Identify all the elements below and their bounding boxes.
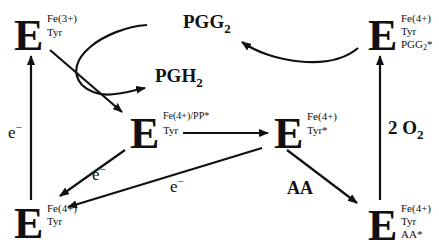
minus-sign: − (178, 175, 184, 187)
radical-star: * (427, 38, 433, 50)
label-pgg2: PGG2 (183, 12, 231, 39)
o2-subscript: 2 (417, 127, 424, 142)
enzyme-node-bottom-left: E (14, 202, 43, 246)
pgg2-subscript: 2 (224, 21, 231, 36)
pgg-text: PGG (401, 38, 423, 50)
node-center-right-fe: Fe(4+) (307, 110, 337, 122)
label-electron-left: e− (8, 118, 22, 142)
node-center-left-tyr: Tyr (163, 124, 178, 136)
node-center-left-fe: Fe(4+)/PP* (163, 110, 209, 122)
node-top-right-fe: Fe(4+) (401, 12, 431, 24)
enzyme-node-top-right: E (368, 14, 397, 58)
pgh2-subscript: 2 (196, 75, 203, 90)
minus-sign: − (16, 121, 22, 133)
enzyme-node-bottom-right: E (368, 204, 397, 248)
pgg2-text: PGG (183, 11, 224, 32)
node-bottom-left-tyr: Tyr (47, 215, 62, 227)
node-bottom-right-aa: AA* (401, 228, 422, 240)
arrow-pgg2-to-pgh2 (76, 25, 147, 95)
label-arachidonic-acid: AA (287, 178, 313, 198)
node-center-right-tyr: Tyr* (307, 124, 328, 136)
label-oxygen: 2 O2 (388, 118, 424, 145)
node-bottom-left-fe: Fe(4+) (47, 202, 77, 214)
o2-text: 2 O (388, 117, 417, 138)
node-top-right-tyr: Tyr (401, 25, 416, 37)
label-electron-mid2: e− (170, 172, 184, 196)
catalytic-cycle-diagram: E Fe(3+) Tyr E Fe(4+) Tyr PGG2* E Fe(4+)… (0, 0, 439, 250)
e-text: e (170, 177, 178, 196)
node-top-right-pgg2: PGG2* (401, 38, 433, 54)
node-bottom-right-fe: Fe(4+) (401, 202, 431, 214)
e-text: e (92, 165, 100, 184)
node-bottom-right-tyr: Tyr (401, 215, 416, 227)
node-top-left-fe: Fe(3+) (47, 12, 77, 24)
label-electron-mid1: e− (92, 160, 106, 184)
enzyme-node-top-left: E (14, 14, 43, 58)
arrow-tl-to-cl (50, 50, 122, 112)
e-text: e (8, 123, 16, 142)
minus-sign: − (100, 163, 106, 175)
label-pgh2: PGH2 (155, 66, 203, 93)
node-top-left-tyr: Tyr (47, 26, 62, 38)
arrow-tr-to-pgg2 (242, 42, 358, 62)
pgh2-text: PGH (155, 65, 196, 86)
enzyme-node-center-right: E (274, 112, 303, 156)
enzyme-node-center-left: E (130, 112, 159, 156)
